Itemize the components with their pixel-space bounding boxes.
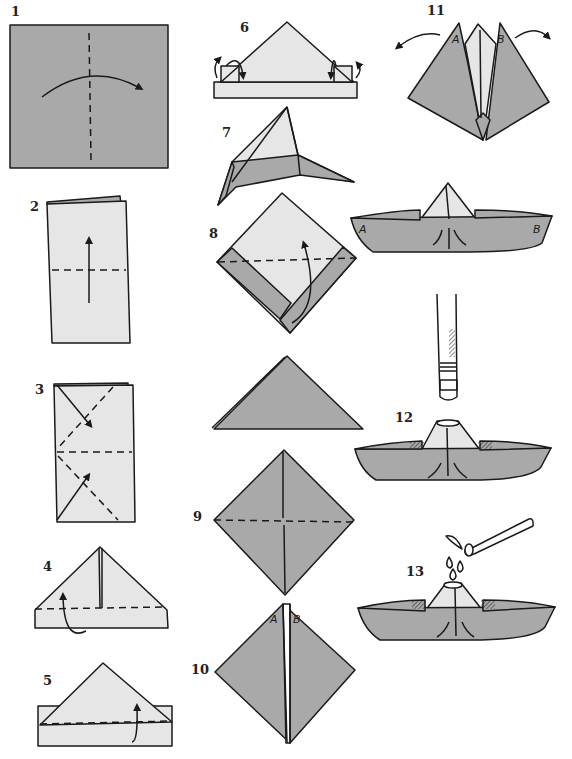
step-6-figure bbox=[214, 22, 360, 98]
flap-label-b-step10: B bbox=[293, 613, 301, 626]
flap-label-b-step11: B bbox=[497, 33, 505, 46]
step-number-11: 11 bbox=[427, 3, 445, 18]
flap-label-a-boat: A bbox=[358, 223, 367, 236]
step-13-figure bbox=[358, 519, 555, 640]
step-10-figure bbox=[215, 604, 355, 743]
step-number-2: 2 bbox=[30, 199, 39, 214]
step-9-figure bbox=[214, 450, 354, 595]
step-number-13: 13 bbox=[406, 564, 424, 579]
step-8-figure bbox=[217, 193, 356, 333]
origami-boat-diagram: A B A B A B 1 2 3 4 5 6 7 8 9 10 11 12 1… bbox=[0, 0, 572, 759]
boat-figure bbox=[351, 183, 552, 252]
step-number-12: 12 bbox=[395, 410, 413, 425]
step-2-figure bbox=[47, 196, 130, 343]
step-1-figure bbox=[10, 25, 168, 168]
step-number-4: 4 bbox=[43, 559, 52, 574]
step-number-6: 6 bbox=[240, 20, 249, 35]
step-number-3: 3 bbox=[35, 382, 44, 397]
flap-label-b-boat: B bbox=[533, 223, 541, 236]
flap-label-a-step10: A bbox=[269, 613, 278, 626]
step-number-1: 1 bbox=[11, 4, 20, 19]
step-4-figure bbox=[35, 547, 168, 633]
step-number-5: 5 bbox=[43, 673, 52, 688]
step-12-figure bbox=[355, 294, 551, 480]
step-number-10: 10 bbox=[191, 662, 209, 677]
step-11-figure bbox=[398, 23, 549, 140]
step-5-figure bbox=[38, 663, 172, 746]
diagram-canvas: A B A B A B bbox=[0, 0, 572, 759]
step-8b-triangle bbox=[212, 356, 363, 429]
step-number-7: 7 bbox=[222, 125, 231, 140]
step-7-figure bbox=[218, 107, 354, 205]
flap-label-a-step11: A bbox=[451, 33, 460, 46]
step-number-8: 8 bbox=[209, 226, 218, 241]
step-3-figure bbox=[54, 383, 135, 522]
step-number-9: 9 bbox=[193, 509, 202, 524]
